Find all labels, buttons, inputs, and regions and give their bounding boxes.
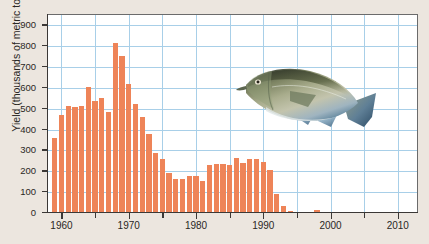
bar	[254, 159, 259, 212]
bar	[193, 176, 198, 212]
x-axis-tick-label: 1990	[252, 220, 274, 231]
y-axis-tick-label: 500	[20, 102, 36, 113]
bar	[146, 134, 151, 212]
bar	[106, 112, 111, 212]
x-axis-tick	[263, 213, 264, 219]
x-axis-tick-label: 2010	[387, 220, 409, 231]
x-axis-tick	[230, 213, 231, 218]
x-axis-tick	[61, 213, 62, 219]
bar	[166, 173, 171, 212]
bar	[113, 43, 118, 212]
plot-area	[48, 14, 418, 212]
bar	[92, 101, 97, 213]
y-axis-tick-labels: 0100200300400500600700800900	[0, 0, 44, 244]
bar	[66, 106, 71, 212]
bar	[187, 176, 192, 212]
bar-series-yield	[48, 15, 417, 212]
bar	[220, 164, 225, 212]
x-axis-tick	[398, 213, 399, 219]
bar	[207, 165, 212, 212]
bar	[140, 117, 145, 212]
bar	[214, 164, 219, 212]
y-axis-tick-label: 900	[20, 19, 36, 30]
bar	[274, 194, 279, 212]
bar	[261, 162, 266, 212]
bar	[126, 84, 131, 212]
bar	[240, 163, 245, 212]
x-axis-tick-label: 1970	[118, 220, 140, 231]
y-axis-tick-label: 400	[20, 123, 36, 134]
x-axis-tick-label: 1960	[50, 220, 72, 231]
x-axis-tick	[331, 213, 332, 219]
x-axis-tick	[364, 213, 365, 218]
y-axis-tick-label: 100	[20, 186, 36, 197]
bar	[160, 159, 165, 212]
x-axis-tick	[196, 213, 197, 219]
x-axis-tick-label: 2000	[319, 220, 341, 231]
x-axis-tick-label: 1980	[185, 220, 207, 231]
bar	[86, 87, 91, 212]
y-axis-tick-label: 200	[20, 165, 36, 176]
bar	[133, 104, 138, 212]
bar	[200, 181, 205, 212]
bar	[281, 206, 286, 212]
x-axis-tick	[95, 213, 96, 218]
y-axis-tick-label: 300	[20, 144, 36, 155]
x-axis-tick	[129, 213, 130, 219]
chart-figure: Yield (thousands of metric tons) 0100200…	[0, 0, 429, 244]
bar	[153, 153, 158, 212]
bar	[227, 165, 232, 212]
bar	[234, 158, 239, 212]
bar	[173, 179, 178, 212]
bar	[247, 159, 252, 212]
bar	[72, 107, 77, 212]
bar	[180, 179, 185, 212]
x-axis-tick	[162, 213, 163, 218]
bar	[52, 138, 57, 212]
bar	[267, 170, 272, 212]
bar	[99, 98, 104, 212]
bar	[79, 106, 84, 212]
x-axis-tick-labels: 196019701980199020002010	[0, 220, 429, 236]
y-axis-tick-label: 600	[20, 81, 36, 92]
bar	[119, 56, 124, 212]
bar	[59, 115, 64, 212]
y-axis-tick-label: 800	[20, 40, 36, 51]
y-axis-tick-label: 700	[20, 61, 36, 72]
x-axis-tick	[297, 213, 298, 218]
